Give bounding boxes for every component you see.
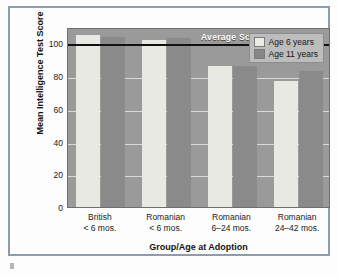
legend-swatch-age6-icon — [254, 37, 265, 47]
figure: Mean Intelligence Test Score 02040608010… — [0, 0, 338, 275]
y-axis-tick-label: 0 — [58, 203, 63, 213]
bar — [142, 40, 166, 207]
y-axis-tick-label: 40 — [54, 138, 63, 148]
x-category-line1: British — [67, 212, 133, 223]
x-category-line2: 6–24 mos. — [199, 223, 265, 234]
bar — [233, 66, 257, 207]
legend-item[interactable]: Age 6 years — [254, 37, 318, 47]
bar-group — [134, 29, 200, 207]
corner-mark — [10, 263, 14, 269]
plot-area: Average Score Age 6 years Age 11 years — [67, 28, 330, 208]
x-category-line1: Romanian — [133, 212, 199, 223]
y-axis-tick-label: 80 — [54, 72, 63, 82]
x-category-line2: 24–42 mos. — [264, 223, 330, 234]
legend-label: Age 6 years — [269, 37, 314, 47]
x-axis-categories: British< 6 mos.Romanian< 6 mos.Romanian6… — [67, 212, 330, 242]
y-axis-ticks: 020406080100 — [28, 28, 63, 208]
x-axis-title: Group/Age at Adoption — [67, 242, 330, 252]
y-axis-tick-label: 20 — [54, 170, 63, 180]
bar — [274, 81, 298, 207]
x-axis-category-label: Romanian< 6 mos. — [133, 212, 199, 242]
x-axis-category-label: Romanian24–42 mos. — [264, 212, 330, 242]
legend-label: Age 11 years — [269, 49, 318, 59]
y-axis-tick-label: 100 — [49, 39, 63, 49]
bar — [76, 35, 100, 207]
legend: Age 6 years Age 11 years — [249, 33, 324, 63]
x-category-line2: < 6 mos. — [67, 223, 133, 234]
legend-item[interactable]: Age 11 years — [254, 49, 318, 59]
x-axis-category-label: British< 6 mos. — [67, 212, 133, 242]
y-axis-tick-label: 60 — [54, 105, 63, 115]
bar — [299, 71, 323, 207]
x-category-line2: < 6 mos. — [133, 223, 199, 234]
legend-swatch-age11-icon — [254, 49, 265, 59]
x-category-line1: Romanian — [199, 212, 265, 223]
bar — [101, 37, 125, 207]
bar-group — [68, 29, 134, 207]
bar — [167, 38, 191, 207]
x-axis-category-label: Romanian6–24 mos. — [199, 212, 265, 242]
x-category-line1: Romanian — [264, 212, 330, 223]
bar — [208, 66, 232, 207]
chart-frame: Mean Intelligence Test Score 02040608010… — [8, 6, 330, 256]
